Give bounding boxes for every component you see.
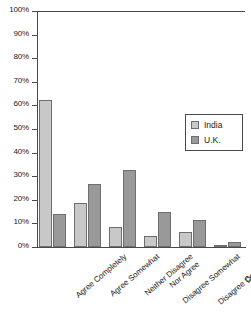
y-axis-tick-mark xyxy=(32,247,37,248)
bar-uk xyxy=(158,212,171,247)
legend-item-india[interactable]: India xyxy=(191,119,237,131)
x-axis-label: Disagree Somewhat xyxy=(181,252,242,306)
y-axis-tick-label: 10% xyxy=(14,217,29,226)
x-axis-label-line1: Disagree Completely xyxy=(216,252,251,307)
bar-uk xyxy=(53,214,66,247)
y-axis-tick-label: 80% xyxy=(14,52,29,61)
legend: India U.K. xyxy=(185,114,243,151)
light-gray-swatch-icon xyxy=(191,121,199,129)
x-axis-line xyxy=(37,247,246,248)
bar-uk xyxy=(88,184,101,247)
x-axis-label: Neither DisagreeNor Agree xyxy=(143,252,201,305)
x-axis-label-line1: Agree Somewhat xyxy=(109,252,162,298)
x-axis-label-line1: Neither Disagree xyxy=(143,252,195,297)
bar-uk xyxy=(193,220,206,247)
x-axis-label: Disagree Completely xyxy=(216,252,251,307)
y-axis-tick-label: 100% xyxy=(9,5,29,14)
bar-chart: 0%10%20%30%40%50%60%70%80%90%100% Agree … xyxy=(0,0,251,319)
y-axis-tick-label: 40% xyxy=(14,147,29,156)
dark-gray-swatch-icon xyxy=(191,136,199,144)
legend-label-india: India xyxy=(204,120,222,130)
bar-india xyxy=(109,227,122,247)
x-axis-label-line1: Agree Completely xyxy=(74,252,129,300)
y-axis-tick-label: 20% xyxy=(14,194,29,203)
x-axis-label: Don't Know xyxy=(243,252,251,285)
bar-india xyxy=(179,232,192,247)
bar-india xyxy=(214,245,227,247)
bar-uk xyxy=(123,170,136,247)
y-axis-tick-label: 0% xyxy=(18,241,29,250)
x-axis-label-line1: Disagree Somewhat xyxy=(181,252,242,305)
bar-uk xyxy=(228,242,241,247)
y-axis-tick-label: 90% xyxy=(14,29,29,38)
x-axis-label-line2: Nor Agree xyxy=(149,259,201,305)
y-axis-tick-label: 60% xyxy=(14,99,29,108)
x-axis-label-line1: Don't Know xyxy=(243,252,251,285)
bar-india xyxy=(144,236,157,247)
x-axis-label: Agree Somewhat xyxy=(109,252,162,299)
y-axis-tick-label: 50% xyxy=(14,123,29,132)
bar-india xyxy=(39,100,52,248)
y-axis-tick-label: 70% xyxy=(14,76,29,85)
y-axis-tick-label: 30% xyxy=(14,170,29,179)
legend-item-uk[interactable]: U.K. xyxy=(191,134,237,146)
bar-india xyxy=(74,203,87,247)
legend-label-uk: U.K. xyxy=(204,135,221,145)
x-axis-label: Agree Completely xyxy=(74,252,129,300)
